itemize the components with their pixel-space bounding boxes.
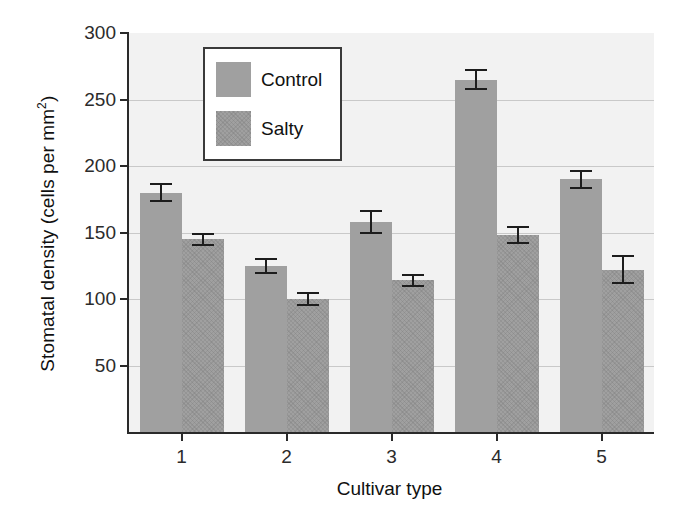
y-axis-title-superscript: 2 <box>35 102 49 109</box>
gridline-200 <box>129 166 654 167</box>
bar-control-cultivar-4 <box>455 80 497 432</box>
y-tick-label-100: 100 <box>84 288 116 310</box>
x-tick-label-5: 5 <box>596 446 607 468</box>
legend-item-control: Control <box>216 62 322 97</box>
stomatal-density-bar-chart: Stomatal density (cells per mm2) 5010015… <box>0 0 689 518</box>
x-tick-label-2: 2 <box>281 446 292 468</box>
legend-label-control: Control <box>261 69 322 91</box>
bar-control-cultivar-2 <box>245 266 287 432</box>
bar-control-cultivar-1 <box>140 193 182 432</box>
bar-control-cultivar-5 <box>560 179 602 432</box>
bar-salty-cultivar-1 <box>182 239 224 432</box>
x-tick-mark-5 <box>601 432 603 441</box>
error-bar-cap-upper <box>465 69 487 71</box>
error-bar-cap-upper <box>150 183 172 185</box>
y-tick-label-250: 250 <box>84 89 116 111</box>
x-tick-mark-2 <box>286 432 288 441</box>
control-swatch <box>216 62 251 97</box>
error-bar-cap-upper <box>255 258 277 260</box>
bar-salty-cultivar-2 <box>287 299 329 432</box>
legend: Control Salty <box>203 47 342 161</box>
y-tick-mark-300 <box>120 32 129 34</box>
x-tick-mark-3 <box>391 432 393 441</box>
y-tick-label-150: 150 <box>84 222 116 244</box>
bar-salty-cultivar-3 <box>392 280 434 432</box>
error-bar-cap-upper <box>297 292 319 294</box>
bar-control-cultivar-3 <box>350 222 392 432</box>
legend-label-salty: Salty <box>261 118 303 140</box>
x-tick-label-1: 1 <box>176 446 187 468</box>
y-tick-label-200: 200 <box>84 155 116 177</box>
error-bar-cap-upper <box>612 255 634 257</box>
y-axis-title-text: Stomatal density (cells per mm <box>37 109 58 372</box>
x-tick-mark-4 <box>496 432 498 441</box>
error-bar-cap-upper <box>570 170 592 172</box>
y-tick-mark-250 <box>120 99 129 101</box>
x-axis-title: Cultivar type <box>127 478 652 500</box>
y-tick-mark-150 <box>120 232 129 234</box>
salty-swatch <box>216 111 251 146</box>
y-tick-mark-50 <box>120 365 129 367</box>
y-axis-title: Stomatal density (cells per mm2) <box>35 34 58 434</box>
y-tick-mark-100 <box>120 298 129 300</box>
y-tick-label-50: 50 <box>95 355 116 377</box>
error-bar-cap-upper <box>507 226 529 228</box>
x-tick-mark-1 <box>181 432 183 441</box>
error-bar-cap-upper <box>402 274 424 276</box>
legend-item-salty: Salty <box>216 111 303 146</box>
x-tick-label-3: 3 <box>386 446 397 468</box>
x-tick-label-4: 4 <box>491 446 502 468</box>
gridline-300 <box>129 33 654 34</box>
bar-salty-cultivar-5 <box>602 270 644 432</box>
bar-salty-cultivar-4 <box>497 235 539 432</box>
y-axis-title-tail: ) <box>37 96 58 102</box>
y-tick-mark-200 <box>120 165 129 167</box>
error-bar-cap-upper <box>360 210 382 212</box>
y-tick-label-300: 300 <box>84 22 116 44</box>
